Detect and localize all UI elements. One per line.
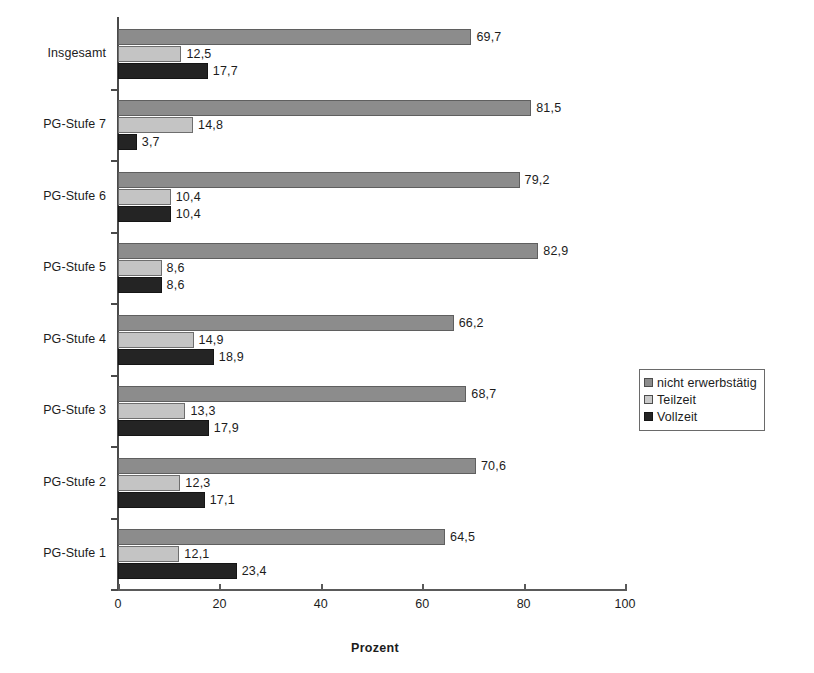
bar-1 [118, 403, 185, 419]
bar-row: 10,4 [118, 206, 625, 222]
x-axis-title: Prozent [0, 641, 814, 655]
bar-row: 82,9 [118, 243, 625, 259]
x-axis-tick [625, 584, 627, 591]
bar-1 [118, 117, 193, 133]
bar-row: 8,6 [118, 277, 625, 293]
bar-row: 17,1 [118, 492, 625, 508]
bar-row: 66,2 [118, 315, 625, 331]
bar-1 [118, 475, 180, 491]
bar-value-label: 10,4 [176, 190, 201, 204]
category-label: PG-Stufe 2 [43, 475, 106, 489]
legend: nicht erwerbstätig Teilzeit Vollzeit [639, 369, 765, 431]
bar-row: 18,9 [118, 349, 625, 365]
bar-value-label: 64,5 [450, 530, 475, 544]
bar-value-label: 12,1 [184, 547, 209, 561]
x-axis-tick-label: 40 [314, 597, 328, 611]
bar-1 [118, 332, 194, 348]
bar-group: PG-Stufe 781,514,83,7 [118, 100, 625, 150]
x-axis-tick-label: 80 [517, 597, 531, 611]
bar-row: 8,6 [118, 260, 625, 276]
bar-row: 17,9 [118, 420, 625, 436]
bar-row: 69,7 [118, 29, 625, 45]
category-label: PG-Stufe 7 [43, 117, 106, 131]
category-label: PG-Stufe 3 [43, 403, 106, 417]
legend-swatch-icon-series-1 [644, 395, 653, 404]
bar-0 [118, 386, 466, 402]
bar-0 [118, 458, 476, 474]
bar-row: 64,5 [118, 529, 625, 545]
bar-value-label: 14,9 [199, 333, 224, 347]
bar-value-label: 17,1 [210, 493, 235, 507]
x-axis-tick [422, 584, 424, 591]
bar-2 [118, 563, 237, 579]
bar-1 [118, 260, 162, 276]
y-axis-tick [111, 518, 118, 520]
bar-row: 3,7 [118, 134, 625, 150]
bar-0 [118, 315, 454, 331]
legend-label-series-0: nicht erwerbstätig [657, 376, 757, 390]
bar-value-label: 23,4 [242, 564, 267, 578]
x-axis-tick [321, 584, 323, 591]
x-axis-tick-label: 20 [212, 597, 226, 611]
y-axis-tick [111, 589, 118, 591]
bar-value-label: 68,7 [471, 387, 496, 401]
bar-2 [118, 206, 171, 222]
legend-swatch-icon-series-2 [644, 412, 653, 421]
bar-group: PG-Stufe 164,512,123,4 [118, 529, 625, 579]
bar-row: 12,3 [118, 475, 625, 491]
bar-value-label: 8,6 [167, 278, 185, 292]
bar-value-label: 8,6 [167, 261, 185, 275]
x-axis-tick [118, 584, 120, 591]
x-axis-tick-label: 100 [615, 597, 636, 611]
bar-row: 79,2 [118, 172, 625, 188]
bar-value-label: 3,7 [142, 135, 160, 149]
bar-value-label: 69,7 [476, 30, 501, 44]
y-axis-tick [111, 89, 118, 91]
bar-2 [118, 134, 137, 150]
legend-label-series-2: Vollzeit [657, 410, 697, 424]
bar-2 [118, 420, 209, 436]
bar-value-label: 18,9 [219, 350, 244, 364]
bar-0 [118, 29, 471, 45]
bar-value-label: 13,3 [190, 404, 215, 418]
y-axis-tick [111, 303, 118, 305]
bar-2 [118, 63, 208, 79]
bar-1 [118, 189, 171, 205]
x-axis-tick [219, 584, 221, 591]
y-axis-tick [111, 446, 118, 448]
bar-row: 70,6 [118, 458, 625, 474]
x-axis-tick-label: 0 [115, 597, 122, 611]
bar-group: PG-Stufe 679,210,410,4 [118, 172, 625, 222]
bar-2 [118, 492, 205, 508]
bar-row: 17,7 [118, 63, 625, 79]
x-axis-tick [524, 584, 526, 591]
bar-2 [118, 277, 162, 293]
bar-row: 23,4 [118, 563, 625, 579]
bar-1 [118, 546, 179, 562]
bar-row: 14,9 [118, 332, 625, 348]
bar-value-label: 70,6 [481, 459, 506, 473]
x-axis-tick-label: 60 [415, 597, 429, 611]
bar-row: 12,1 [118, 546, 625, 562]
bar-value-label: 66,2 [459, 316, 484, 330]
bar-value-label: 81,5 [536, 101, 561, 115]
bar-value-label: 79,2 [525, 173, 550, 187]
category-label: PG-Stufe 6 [43, 189, 106, 203]
category-label: PG-Stufe 4 [43, 332, 106, 346]
bar-0 [118, 100, 531, 116]
bar-group: PG-Stufe 270,612,317,1 [118, 458, 625, 508]
legend-item-vollzeit: Vollzeit [644, 408, 757, 425]
x-axis-title-text: Prozent [351, 641, 399, 655]
bar-group: PG-Stufe 466,214,918,9 [118, 315, 625, 365]
category-label: Insgesamt [47, 46, 106, 60]
bar-row: 68,7 [118, 386, 625, 402]
bar-group: PG-Stufe 368,713,317,9 [118, 386, 625, 436]
bar-row: 14,8 [118, 117, 625, 133]
bar-value-label: 17,7 [213, 64, 238, 78]
bar-0 [118, 243, 538, 259]
y-axis-tick [111, 375, 118, 377]
bar-group: PG-Stufe 582,98,68,6 [118, 243, 625, 293]
y-axis-tick [111, 160, 118, 162]
bar-value-label: 14,8 [198, 118, 223, 132]
legend-label-series-1: Teilzeit [657, 393, 696, 407]
